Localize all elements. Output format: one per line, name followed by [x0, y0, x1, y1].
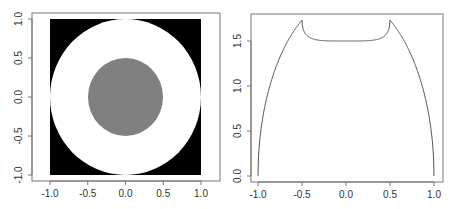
tick-label: 1.0 — [13, 12, 24, 26]
left-y-axis — [28, 19, 32, 175]
profile-line — [258, 20, 434, 176]
left-x-axis — [50, 181, 201, 185]
tick-label: 0.0 — [339, 189, 353, 200]
right-plot-frame — [251, 14, 443, 182]
right-y-axis — [247, 41, 251, 176]
tick-label: -1.0 — [13, 166, 24, 184]
tick-label: -0.5 — [79, 188, 97, 199]
right-x-axis — [258, 182, 434, 186]
tick-label: -1.0 — [41, 188, 59, 199]
tick-label: 0.5 — [232, 124, 243, 138]
tick-label: -0.5 — [13, 127, 24, 145]
left-plot-grey-disk — [88, 58, 163, 136]
right-x-tick-labels: -1.0 -0.5 0.0 0.5 1.0 — [249, 189, 441, 200]
tick-label: 0.0 — [119, 188, 133, 199]
tick-label: 1.0 — [194, 188, 208, 199]
right-y-tick-labels: 0.0 0.5 1.0 1.5 — [232, 34, 243, 183]
tick-label: 0.5 — [383, 189, 397, 200]
tick-label: 0.5 — [156, 188, 170, 199]
left-y-tick-labels: -1.0 -0.5 0.0 0.5 1.0 — [13, 12, 24, 184]
tick-label: 1.5 — [232, 34, 243, 48]
tick-label: 0.0 — [232, 169, 243, 183]
tick-label: 0.5 — [13, 51, 24, 65]
tick-label: -1.0 — [249, 189, 267, 200]
tick-label: 1.0 — [427, 189, 441, 200]
left-plot: -1.0 -0.5 0.0 0.5 1.0 -1.0 -0.5 0.0 0.5 … — [13, 12, 220, 199]
tick-label: -0.5 — [293, 189, 311, 200]
tick-label: 0.0 — [13, 90, 24, 104]
figure: -1.0 -0.5 0.0 0.5 1.0 -1.0 -0.5 0.0 0.5 … — [0, 0, 457, 209]
tick-label: 1.0 — [232, 79, 243, 93]
right-plot: -1.0 -0.5 0.0 0.5 1.0 0.0 0.5 1.0 1.5 — [232, 14, 443, 200]
left-x-tick-labels: -1.0 -0.5 0.0 0.5 1.0 — [41, 188, 208, 199]
